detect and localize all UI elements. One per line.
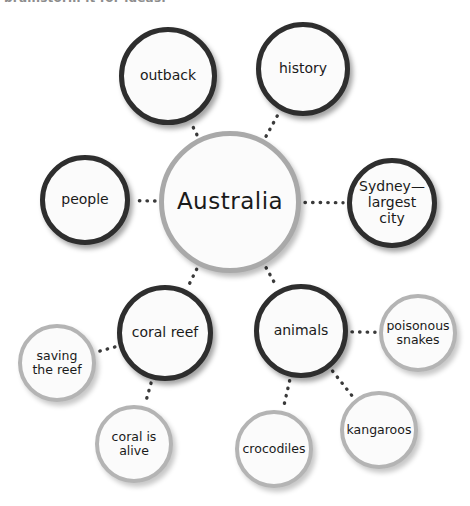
connector-center-to-animals: [266, 268, 276, 287]
mindmap-node-center[interactable]: Australia: [159, 131, 301, 273]
mindmap-node-crocodiles[interactable]: crocodiles: [235, 410, 313, 488]
mindmap-node-snakes[interactable]: poisonous snakes: [379, 294, 457, 372]
connector-coralreef-to-coralalive: [146, 383, 151, 403]
mindmap-node-label: animals: [270, 323, 333, 339]
mind-map-canvas: brainstorm it for ideas. Australiaoutbac…: [0, 0, 470, 506]
connector-animals-to-crocodiles: [284, 381, 290, 407]
connector-center-to-coralreef: [188, 269, 197, 286]
connector-animals-to-kangaroos: [333, 371, 353, 396]
connector-center-to-outback: [191, 124, 196, 135]
mindmap-node-people[interactable]: people: [40, 155, 130, 245]
connector-center-to-history: [266, 114, 278, 137]
mindmap-node-label: outback: [136, 68, 200, 84]
mindmap-node-coralalive[interactable]: coral is alive: [95, 405, 173, 483]
mindmap-node-label: kangaroos: [343, 423, 416, 437]
mindmap-node-animals[interactable]: animals: [254, 284, 348, 378]
mindmap-node-label: crocodiles: [239, 442, 310, 456]
mindmap-node-label: Sydney— largest city: [352, 179, 432, 226]
mindmap-node-label: saving the reef: [28, 349, 85, 377]
mindmap-node-saving[interactable]: saving the reef: [18, 324, 96, 402]
mindmap-node-history[interactable]: history: [256, 22, 350, 116]
mindmap-node-label: poisonous snakes: [382, 319, 453, 347]
mindmap-node-label: coral reef: [128, 325, 203, 341]
mindmap-node-label: coral is alive: [108, 430, 161, 458]
mindmap-node-coralreef[interactable]: coral reef: [117, 285, 213, 381]
mindmap-node-label: history: [275, 61, 331, 77]
mindmap-node-sydney[interactable]: Sydney— largest city: [347, 158, 437, 248]
mindmap-node-label: people: [57, 192, 112, 208]
mindmap-node-kangaroos[interactable]: kangaroos: [340, 391, 418, 469]
mindmap-node-label: Australia: [173, 189, 287, 215]
connector-coralreef-to-saving: [98, 347, 114, 352]
mindmap-node-outback[interactable]: outback: [119, 27, 217, 125]
